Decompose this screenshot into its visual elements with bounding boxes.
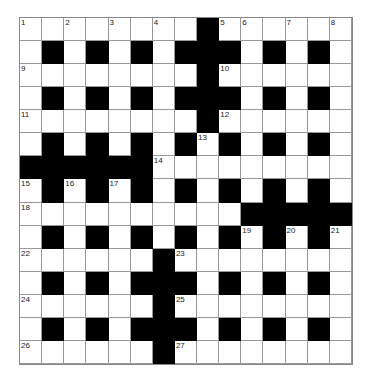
grid-cell[interactable]: 11 bbox=[20, 110, 42, 133]
grid-cell[interactable] bbox=[64, 295, 86, 318]
grid-cell[interactable]: 22 bbox=[20, 249, 42, 272]
grid-cell[interactable] bbox=[330, 179, 352, 202]
grid-cell[interactable]: 10 bbox=[219, 64, 241, 87]
grid-cell[interactable] bbox=[330, 318, 352, 341]
grid-cell[interactable] bbox=[42, 295, 64, 318]
grid-cell[interactable] bbox=[109, 133, 131, 156]
grid-cell[interactable] bbox=[109, 203, 131, 226]
grid-cell[interactable] bbox=[330, 133, 352, 156]
grid-cell[interactable] bbox=[175, 203, 197, 226]
grid-cell[interactable] bbox=[330, 87, 352, 110]
grid-cell[interactable] bbox=[131, 295, 153, 318]
grid-cell[interactable] bbox=[263, 18, 285, 41]
grid-cell[interactable] bbox=[286, 341, 308, 364]
grid-cell[interactable]: 8 bbox=[330, 18, 352, 41]
grid-cell[interactable] bbox=[109, 272, 131, 295]
grid-cell[interactable] bbox=[64, 41, 86, 64]
grid-cell[interactable] bbox=[42, 18, 64, 41]
grid-cell[interactable] bbox=[330, 64, 352, 87]
grid-cell[interactable] bbox=[286, 41, 308, 64]
grid-cell[interactable] bbox=[153, 203, 175, 226]
grid-cell[interactable] bbox=[241, 295, 263, 318]
grid-cell[interactable] bbox=[175, 18, 197, 41]
grid-cell[interactable] bbox=[286, 179, 308, 202]
grid-cell[interactable]: 5 bbox=[219, 18, 241, 41]
grid-cell[interactable] bbox=[286, 110, 308, 133]
grid-cell[interactable]: 6 bbox=[241, 18, 263, 41]
grid-cell[interactable] bbox=[330, 110, 352, 133]
grid-cell[interactable] bbox=[286, 156, 308, 179]
grid-cell[interactable] bbox=[330, 156, 352, 179]
grid-cell[interactable] bbox=[64, 64, 86, 87]
grid-cell[interactable]: 3 bbox=[109, 18, 131, 41]
grid-cell[interactable]: 2 bbox=[64, 18, 86, 41]
grid-cell[interactable] bbox=[219, 295, 241, 318]
grid-cell[interactable] bbox=[42, 110, 64, 133]
grid-cell[interactable] bbox=[86, 203, 108, 226]
grid-cell[interactable] bbox=[308, 18, 330, 41]
grid-cell[interactable] bbox=[330, 249, 352, 272]
grid-cell[interactable] bbox=[153, 64, 175, 87]
grid-cell[interactable]: 17 bbox=[109, 179, 131, 202]
grid-cell[interactable] bbox=[20, 318, 42, 341]
grid-cell[interactable] bbox=[330, 272, 352, 295]
grid-cell[interactable] bbox=[241, 272, 263, 295]
grid-cell[interactable] bbox=[241, 87, 263, 110]
grid-cell[interactable] bbox=[308, 156, 330, 179]
grid-cell[interactable]: 18 bbox=[20, 203, 42, 226]
grid-cell[interactable] bbox=[330, 41, 352, 64]
grid-cell[interactable] bbox=[64, 110, 86, 133]
grid-cell[interactable] bbox=[131, 18, 153, 41]
grid-cell[interactable] bbox=[109, 295, 131, 318]
grid-cell[interactable] bbox=[86, 341, 108, 364]
grid-cell[interactable] bbox=[308, 295, 330, 318]
grid-cell[interactable] bbox=[131, 64, 153, 87]
grid-cell[interactable] bbox=[330, 295, 352, 318]
grid-cell[interactable] bbox=[241, 249, 263, 272]
grid-cell[interactable] bbox=[131, 249, 153, 272]
grid-cell[interactable] bbox=[263, 64, 285, 87]
grid-cell[interactable] bbox=[219, 203, 241, 226]
grid-cell[interactable] bbox=[64, 87, 86, 110]
grid-cell[interactable] bbox=[241, 179, 263, 202]
grid-cell[interactable] bbox=[109, 249, 131, 272]
grid-cell[interactable] bbox=[86, 18, 108, 41]
grid-cell[interactable] bbox=[42, 203, 64, 226]
grid-cell[interactable] bbox=[153, 41, 175, 64]
grid-cell[interactable] bbox=[109, 87, 131, 110]
grid-cell[interactable] bbox=[153, 110, 175, 133]
grid-cell[interactable] bbox=[241, 41, 263, 64]
grid-cell[interactable] bbox=[286, 64, 308, 87]
grid-cell[interactable] bbox=[86, 110, 108, 133]
grid-cell[interactable]: 20 bbox=[286, 226, 308, 249]
grid-cell[interactable]: 14 bbox=[153, 156, 175, 179]
grid-cell[interactable] bbox=[197, 179, 219, 202]
grid-cell[interactable]: 21 bbox=[330, 226, 352, 249]
grid-cell[interactable] bbox=[241, 64, 263, 87]
grid-cell[interactable] bbox=[86, 64, 108, 87]
grid-cell[interactable] bbox=[286, 295, 308, 318]
grid-cell[interactable] bbox=[263, 249, 285, 272]
grid-cell[interactable] bbox=[263, 295, 285, 318]
grid-cell[interactable] bbox=[175, 64, 197, 87]
grid-cell[interactable] bbox=[219, 156, 241, 179]
grid-cell[interactable] bbox=[197, 203, 219, 226]
grid-cell[interactable] bbox=[175, 156, 197, 179]
grid-cell[interactable] bbox=[64, 318, 86, 341]
grid-cell[interactable]: 25 bbox=[175, 295, 197, 318]
grid-cell[interactable]: 15 bbox=[20, 179, 42, 202]
grid-cell[interactable] bbox=[86, 249, 108, 272]
grid-cell[interactable] bbox=[286, 249, 308, 272]
grid-cell[interactable]: 1 bbox=[20, 18, 42, 41]
grid-cell[interactable]: 16 bbox=[64, 179, 86, 202]
grid-cell[interactable] bbox=[20, 41, 42, 64]
grid-cell[interactable] bbox=[330, 341, 352, 364]
grid-cell[interactable] bbox=[109, 341, 131, 364]
grid-cell[interactable] bbox=[109, 318, 131, 341]
grid-cell[interactable] bbox=[20, 133, 42, 156]
grid-cell[interactable]: 4 bbox=[153, 18, 175, 41]
grid-cell[interactable]: 27 bbox=[175, 341, 197, 364]
grid-cell[interactable] bbox=[286, 318, 308, 341]
grid-cell[interactable] bbox=[197, 272, 219, 295]
grid-cell[interactable] bbox=[42, 64, 64, 87]
